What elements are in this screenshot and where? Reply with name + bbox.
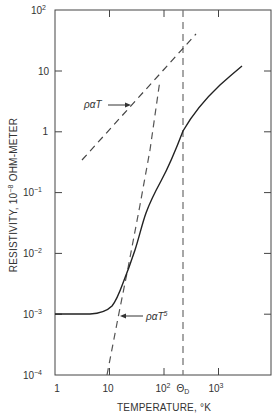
y-tick-labels: 10−4 10−3 10−2 10−1 1 10 102: [23, 4, 50, 381]
y-tick-1e-2: 10−2: [23, 247, 42, 259]
x-ticks: [110, 10, 219, 375]
x-tick-1: 1: [54, 383, 60, 394]
x-tick-theta-d: ΘD: [177, 383, 190, 395]
y-axis-title: RESISTIVITY, 10−8 OHM-METER: [7, 118, 19, 272]
x-tick-labels: 1 10 102 ΘD 103: [54, 382, 223, 395]
y-tick-1e-3: 10−3: [23, 308, 42, 320]
y-tick-1: 1: [42, 126, 48, 137]
annotation-rho-t: ραT: [83, 99, 102, 110]
arrow-icon: [108, 103, 131, 108]
y-tick-10: 10: [38, 66, 50, 77]
annotation-rho-t5: ραT5: [145, 310, 168, 322]
x-tick-10: 10: [102, 383, 114, 394]
y-tick-100: 102: [31, 4, 46, 16]
arrow-icon: [120, 314, 143, 319]
x-tick-1000: 103: [208, 382, 223, 394]
x-axis-title: TEMPERATURE, °K: [117, 402, 211, 413]
y-tick-1e-1: 10−1: [23, 186, 42, 198]
y-tick-1e-4: 10−4: [23, 369, 42, 381]
resistivity-chart: 10−4 10−3 10−2 10−1 1 10 102 1 10 102 ΘD…: [0, 0, 280, 418]
x-tick-100: 102: [155, 382, 170, 394]
